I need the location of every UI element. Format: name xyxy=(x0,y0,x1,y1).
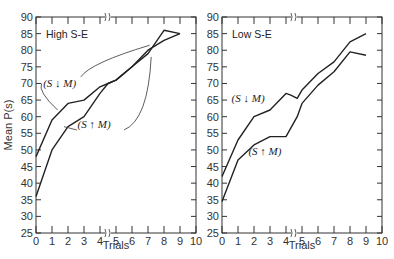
x-tick-label: 2 xyxy=(251,235,257,247)
y-tick-label: 55 xyxy=(21,127,33,139)
x-tick-label: 2 xyxy=(65,235,71,247)
x-tick-label: 0 xyxy=(33,235,39,247)
x-tick-label: 10 xyxy=(190,235,202,247)
x-tick-label: 7 xyxy=(331,235,337,247)
y-tick-label: 45 xyxy=(207,161,219,173)
y-tick-label: 45 xyxy=(21,161,33,173)
y-tick-label: 40 xyxy=(21,177,33,189)
x-axis-title: Trials xyxy=(103,239,130,251)
x-tick-label: 9 xyxy=(363,235,369,247)
y-tick-label: 85 xyxy=(207,28,219,40)
y-tick-label: 65 xyxy=(21,94,33,106)
panel-label: High S-E xyxy=(46,28,88,40)
y-tick-label: 75 xyxy=(207,61,219,73)
plot-frame xyxy=(222,17,382,233)
panel-label: Low S-E xyxy=(232,28,272,40)
x-tick-label: 1 xyxy=(235,235,241,247)
y-tick-label: 30 xyxy=(207,210,219,222)
annotation-s-up-m: (S ↑ M) xyxy=(248,145,281,158)
panel-high-se: 2530354045505560657075808590012345678910… xyxy=(2,11,202,251)
x-tick-label: 6 xyxy=(315,235,321,247)
y-tick-label: 30 xyxy=(21,210,33,222)
plot-frame xyxy=(36,17,196,233)
y-tick-label: 80 xyxy=(21,44,33,56)
y-tick-label: 60 xyxy=(207,111,219,123)
y-tick-label: 90 xyxy=(21,11,33,23)
y-tick-label: 60 xyxy=(21,111,33,123)
series-line-s-down-m xyxy=(36,30,180,156)
x-tick-label: 3 xyxy=(81,235,87,247)
y-tick-label: 55 xyxy=(207,127,219,139)
x-tick-label: 8 xyxy=(161,235,167,247)
annotation-s-down-m: (S ↓ M) xyxy=(43,77,76,90)
x-tick-label: 6 xyxy=(129,235,135,247)
x-tick-label: 8 xyxy=(347,235,353,247)
series-line-s-up-m xyxy=(222,52,366,202)
y-tick-label: 70 xyxy=(21,77,33,89)
x-tick-label: 10 xyxy=(376,235,388,247)
y-tick-label: 75 xyxy=(21,61,33,73)
x-tick-label: 1 xyxy=(49,235,55,247)
y-tick-label: 50 xyxy=(21,144,33,156)
y-tick-label: 85 xyxy=(21,28,33,40)
y-tick-label: 35 xyxy=(21,194,33,206)
x-tick-label: 7 xyxy=(145,235,151,247)
y-axis-title: Mean P(s) xyxy=(2,100,14,151)
x-tick-label: 0 xyxy=(219,235,225,247)
y-tick-label: 40 xyxy=(207,177,219,189)
chart-figure: 2530354045505560657075808590012345678910… xyxy=(0,0,394,259)
x-axis-title: Trials xyxy=(289,239,316,251)
y-tick-label: 25 xyxy=(21,227,33,239)
y-tick-label: 25 xyxy=(207,227,219,239)
annotation-arrow xyxy=(124,57,151,130)
y-tick-label: 65 xyxy=(207,94,219,106)
annotation-s-down-m: (S ↓ M) xyxy=(232,92,265,105)
y-tick-label: 70 xyxy=(207,77,219,89)
y-tick-label: 35 xyxy=(207,194,219,206)
y-tick-label: 80 xyxy=(207,44,219,56)
y-tick-label: 50 xyxy=(207,144,219,156)
annotation-s-up-m: (S ↑ M) xyxy=(78,118,111,131)
x-tick-label: 3 xyxy=(267,235,273,247)
y-tick-label: 90 xyxy=(207,11,219,23)
panel-low-se: 2530354045505560657075808590012345678910… xyxy=(207,11,388,251)
x-tick-label: 9 xyxy=(177,235,183,247)
